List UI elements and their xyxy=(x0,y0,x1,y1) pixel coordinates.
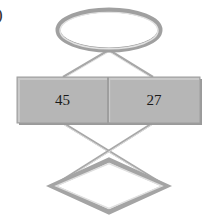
diagram-graphic xyxy=(0,0,210,219)
edge-ellipse-to-cell-left-highlight xyxy=(64,51,110,78)
edge-ellipse-to-cell-right xyxy=(109,50,153,77)
diamond-node-hit-area[interactable] xyxy=(50,158,168,214)
edge-ellipse-to-cell-left xyxy=(63,50,109,77)
ellipse-node[interactable] xyxy=(56,8,162,52)
edge-ellipse-to-cell-right-highlight xyxy=(108,51,152,78)
diamond-node[interactable] xyxy=(50,158,168,214)
cell-right-value: 27 xyxy=(108,93,200,108)
edge-group-upper xyxy=(63,50,153,78)
diagram-canvas: ) xyxy=(0,0,210,219)
cell-left-value: 45 xyxy=(17,93,108,108)
ellipse-node-hit-area[interactable] xyxy=(56,8,162,52)
